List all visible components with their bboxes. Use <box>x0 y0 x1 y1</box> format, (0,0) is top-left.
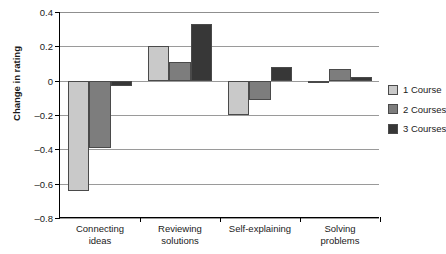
bar-1 <box>148 46 170 80</box>
y-axis-title: Change in rating <box>11 24 22 144</box>
bar-2 <box>329 69 351 81</box>
bar-2 <box>249 81 271 100</box>
bar-group: Self-explaining <box>220 12 300 217</box>
bar-2 <box>169 62 191 81</box>
x-axis-separator <box>300 217 301 222</box>
bar-group: Solving problems <box>300 12 380 217</box>
bar-group: Reviewing solutions <box>140 12 220 217</box>
legend-item: 2 Courses <box>388 104 446 115</box>
x-axis-category-label: Solving problems <box>294 223 386 246</box>
x-axis-category-label: Connecting ideas <box>54 223 146 246</box>
plot-area: 0.40.20–0.2–0.4–0.6–0.8Connecting ideasR… <box>59 12 379 218</box>
bar-3 <box>271 67 293 81</box>
y-axis-tick-label: 0.4 <box>40 7 53 18</box>
bar-1 <box>68 81 90 191</box>
legend-swatch-icon <box>388 104 398 114</box>
y-axis-tick-label: –0.2 <box>35 110 54 121</box>
y-axis-tick <box>55 218 60 219</box>
y-axis-tick-label: –0.6 <box>35 178 54 189</box>
bar-1 <box>228 81 250 115</box>
x-axis-separator <box>220 217 221 222</box>
y-axis-tick-label: 0 <box>48 75 53 86</box>
bar-group: Connecting ideas <box>60 12 140 217</box>
legend-label: 3 Courses <box>403 123 446 134</box>
bar-2 <box>89 81 111 148</box>
y-axis-tick-label: 0.2 <box>40 41 53 52</box>
y-axis-tick-label: –0.4 <box>35 144 54 155</box>
x-axis-separator <box>380 217 381 222</box>
bar-3 <box>351 77 373 80</box>
legend-swatch-icon <box>388 85 398 95</box>
legend-item: 1 Course <box>388 84 446 95</box>
bar-3 <box>191 24 213 81</box>
x-axis-category-label: Reviewing solutions <box>134 223 226 246</box>
legend-item: 3 Courses <box>388 123 446 134</box>
x-axis-separator <box>140 217 141 222</box>
x-axis-category-label: Self-explaining <box>214 223 306 235</box>
bar-3 <box>111 81 133 86</box>
legend-label: 1 Course <box>403 84 442 95</box>
legend-swatch-icon <box>388 124 398 134</box>
chart-legend: 1 Course2 Courses3 Courses <box>388 84 446 134</box>
legend-label: 2 Courses <box>403 104 446 115</box>
y-axis-tick-label: –0.8 <box>35 213 54 224</box>
bar-1 <box>308 81 330 83</box>
